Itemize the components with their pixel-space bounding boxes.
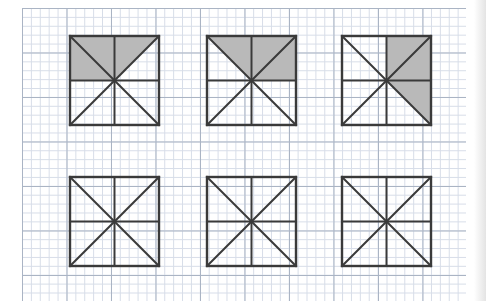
divided-square-3 (339, 33, 434, 128)
divided-square-2 (204, 33, 299, 128)
divided-square-4 (67, 174, 162, 269)
worksheet-page (0, 0, 486, 301)
divided-square-5 (204, 174, 299, 269)
divided-square-1 (67, 33, 162, 128)
divided-square-6 (339, 174, 434, 269)
figures-container (0, 0, 486, 301)
